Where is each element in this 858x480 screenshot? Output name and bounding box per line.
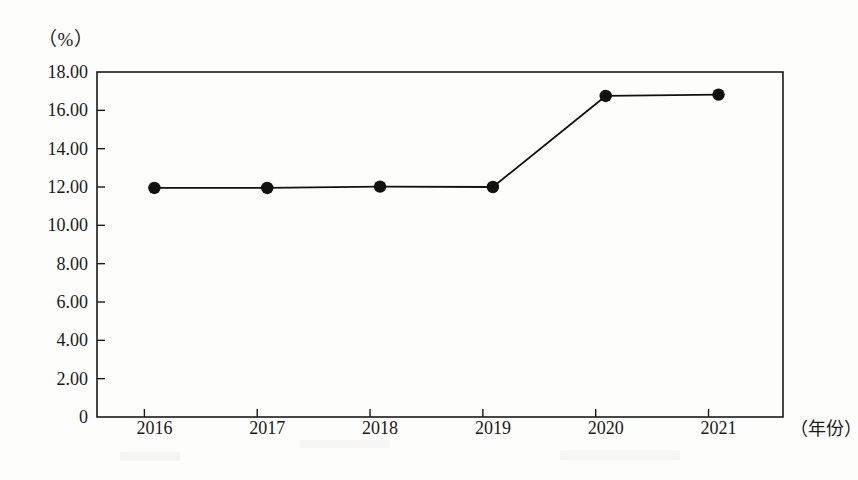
data-point-marker [600, 90, 612, 102]
data-point-markers [148, 88, 725, 194]
data-point-marker [374, 180, 386, 192]
chart-figure: （%） （年份） 18.0016.0014.0012.0010.008.006.… [0, 0, 858, 480]
plot-svg [0, 0, 858, 480]
plot-frame [97, 72, 783, 417]
x-axis-tick-label: 2021 [701, 418, 737, 439]
data-point-marker [487, 181, 499, 193]
data-point-marker [148, 182, 160, 194]
x-axis-tick-label: 2020 [588, 418, 624, 439]
x-axis-tick-marks [144, 409, 708, 417]
x-axis-tick-label: 2019 [475, 418, 511, 439]
x-axis-tick-label: 2016 [136, 418, 172, 439]
x-axis-tick-label: 2017 [249, 418, 285, 439]
y-axis-tick-marks [97, 110, 105, 378]
x-axis-tick-label: 2018 [362, 418, 398, 439]
data-point-marker [261, 182, 273, 194]
data-line [154, 95, 718, 188]
data-point-marker [712, 88, 724, 100]
